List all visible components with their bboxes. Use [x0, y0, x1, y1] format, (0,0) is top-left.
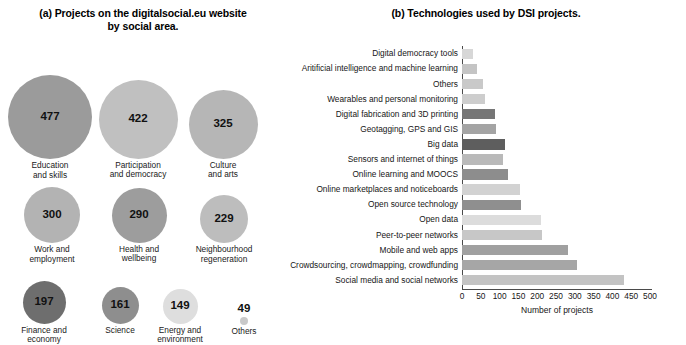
bubble-circle[interactable]: 300: [24, 187, 80, 243]
bar[interactable]: [462, 139, 505, 149]
bar[interactable]: [462, 124, 496, 134]
x-tick-label: 0: [460, 291, 465, 301]
bar-row[interactable]: Mobile and web apps: [286, 243, 686, 258]
bar-track: [462, 137, 686, 152]
bubble-circle[interactable]: [240, 317, 248, 325]
bar-track: [462, 198, 686, 213]
bar[interactable]: [462, 184, 520, 194]
bubble-label: Others: [184, 327, 304, 337]
bar[interactable]: [462, 79, 483, 89]
bar[interactable]: [462, 260, 577, 270]
bar[interactable]: [462, 245, 568, 255]
bar-category-label: Aritificial intelligence and machine lea…: [286, 64, 462, 74]
bar[interactable]: [462, 49, 473, 59]
bar-category-label: Geotagging, GPS and GIS: [286, 125, 462, 135]
bar[interactable]: [462, 215, 541, 225]
bar-category-label: Online marketplaces and noticeboards: [286, 185, 462, 195]
bar-track: [462, 92, 686, 107]
bar-category-label: Digital fabrication and 3D printing: [286, 110, 462, 120]
bar-plot-area: 050100150200250300350400450500 Number of…: [286, 20, 686, 310]
bar-row[interactable]: Social media and social networks: [286, 273, 686, 288]
bar-track: [462, 243, 686, 258]
bar[interactable]: [462, 154, 503, 164]
bar[interactable]: [462, 94, 485, 104]
bar-category-label: Social media and social networks: [286, 276, 462, 286]
panel-a-title: (a) Projects on the digitalsocial.eu web…: [0, 0, 286, 32]
bubble-plot-area: 477Education and skills422Participation …: [0, 32, 286, 318]
bubble-label: Neighbourhood regeneration: [164, 245, 284, 264]
bubble-value: 422: [128, 113, 147, 125]
bar-row[interactable]: Crowdsourcing, crowdmapping, crowdfundin…: [286, 258, 686, 273]
bar[interactable]: [462, 200, 521, 210]
bar-row[interactable]: Digital democracy tools: [286, 47, 686, 62]
bubble-circle[interactable]: 325: [189, 90, 258, 159]
bar[interactable]: [462, 109, 495, 119]
bar-row[interactable]: Digital fabrication and 3D printing: [286, 107, 686, 122]
panel-a-title-line2: by social area.: [108, 20, 179, 32]
x-axis-title: Number of projects: [462, 305, 652, 315]
bar-row[interactable]: Others: [286, 77, 686, 92]
bar-track: [462, 152, 686, 167]
bar-category-label: Sensors and internet of things: [286, 155, 462, 165]
panel-b-title: (b) Technologies used by DSI projects.: [286, 0, 686, 20]
bubble-value: 300: [42, 209, 61, 221]
bar-row[interactable]: Aritificial intelligence and machine lea…: [286, 62, 686, 77]
bar-row[interactable]: Open source technology: [286, 198, 686, 213]
x-tick-label: 400: [605, 291, 619, 301]
bar-category-label: Wearables and personal monitoring: [286, 95, 462, 105]
bar-track: [462, 273, 686, 288]
bubble-value: 290: [129, 209, 148, 221]
bar-category-label: Others: [286, 80, 462, 90]
bubble-value: 229: [214, 213, 233, 225]
bar-row[interactable]: Online marketplaces and noticeboards: [286, 182, 686, 197]
bar-row[interactable]: Big data: [286, 137, 686, 152]
bar-row[interactable]: Wearables and personal monitoring: [286, 92, 686, 107]
panel-a-title-line1: (a) Projects on the digitalsocial.eu web…: [39, 7, 246, 19]
panel-b-bar-chart: (b) Technologies used by DSI projects. 0…: [286, 0, 686, 318]
bar-track: [462, 47, 686, 62]
x-tick-label: 50: [476, 291, 485, 301]
x-tick-label: 150: [511, 291, 525, 301]
bar-row[interactable]: Online learning and MOOCS: [286, 167, 686, 182]
bar-category-label: Mobile and web apps: [286, 246, 462, 256]
bar-category-label: Open data: [286, 215, 462, 225]
bar-category-label: Big data: [286, 140, 462, 150]
bar-category-label: Online learning and MOOCS: [286, 170, 462, 180]
bubble-group[interactable]: 325Culture and arts: [163, 70, 283, 180]
bar[interactable]: [462, 64, 477, 74]
bar-track: [462, 77, 686, 92]
bar[interactable]: [462, 275, 624, 285]
bar-track: [462, 167, 686, 182]
bar-track: [462, 258, 686, 273]
x-tick-label: 350: [587, 291, 601, 301]
bar-row[interactable]: Peer-to-peer networks: [286, 228, 686, 243]
bubble-value: 197: [34, 296, 53, 308]
bar-category-label: Crowdsourcing, crowdmapping, crowdfundin…: [286, 261, 462, 271]
bar-track: [462, 213, 686, 228]
bar-track: [462, 62, 686, 77]
bar-row[interactable]: Geotagging, GPS and GIS: [286, 122, 686, 137]
bar[interactable]: [462, 169, 508, 179]
x-tick-label: 500: [643, 291, 657, 301]
x-tick-label: 300: [568, 291, 582, 301]
bar-row[interactable]: Open data: [286, 213, 686, 228]
x-axis-ticks: 050100150200250300350400450500: [462, 291, 658, 303]
bar[interactable]: [462, 230, 542, 240]
bar-category-label: Open source technology: [286, 200, 462, 210]
bubble-group[interactable]: 229Neighbourhood regeneration: [164, 175, 284, 264]
bubble-value: 325: [213, 118, 232, 130]
bubble-value: 477: [40, 111, 59, 123]
bar-row[interactable]: Sensors and internet of things: [286, 152, 686, 167]
x-tick-label: 100: [493, 291, 507, 301]
bubble-circle[interactable]: 229: [200, 195, 248, 243]
bar-track: [462, 122, 686, 137]
bar-category-label: Peer-to-peer networks: [286, 231, 462, 241]
x-tick-label: 450: [624, 291, 638, 301]
x-tick-label: 200: [530, 291, 544, 301]
bubble-circle[interactable]: 290: [112, 188, 167, 243]
bar-track: [462, 182, 686, 197]
bar-track: [462, 228, 686, 243]
x-axis-line: [462, 289, 652, 290]
panel-a-bubble-chart: (a) Projects on the digitalsocial.eu web…: [0, 0, 286, 318]
x-tick-label: 250: [549, 291, 563, 301]
